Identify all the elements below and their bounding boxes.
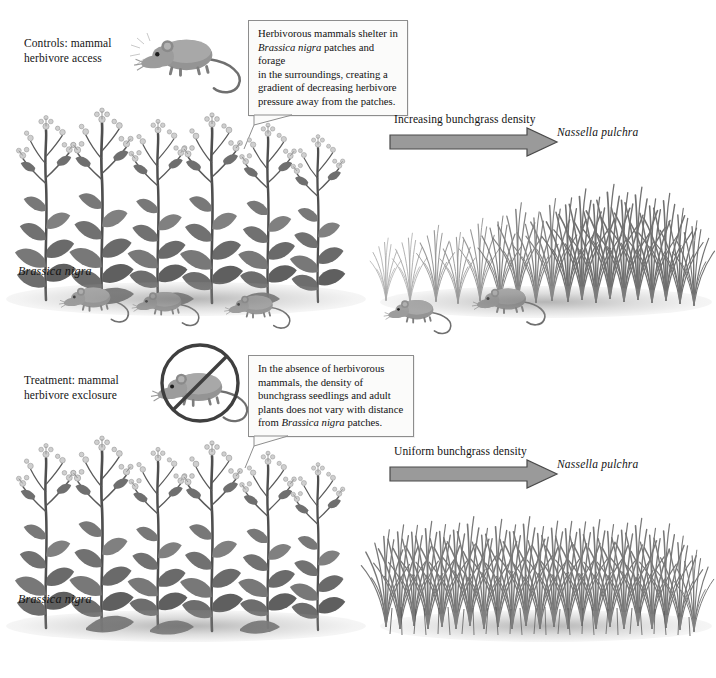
control-arrow-label: Increasing bunchgrass density — [394, 112, 536, 127]
exclosure-treatment-label-line1: Treatment: mammal — [24, 373, 154, 388]
exclosure-callout-species: Brassica nigra — [281, 416, 344, 428]
exclosure-brassica-illustration — [0, 434, 372, 648]
control-callout-box: Herbivorous mammals shelter in Brassica … — [248, 20, 408, 116]
control-callout-line3: in the surroundings, creating a — [258, 68, 388, 80]
control-grass-illustration — [376, 140, 716, 325]
exclosure-grass-panel — [376, 470, 716, 650]
mouse-in-grass-2 — [472, 289, 545, 325]
exclosure-callout-box: In the absence of herbivorous mammals, t… — [248, 355, 414, 437]
no-mouse-icon — [152, 341, 252, 433]
exclosure-callout-line3: bunchgrass seedlings and adult — [258, 389, 391, 401]
control-grass-panel — [376, 140, 716, 325]
exclosure-callout-line1: In the absence of herbivorous — [258, 362, 384, 374]
figure-root: Controls: mammal herbivore access Herbiv… — [0, 0, 716, 678]
exclosure-arrow-label: Uniform bunchgrass density — [394, 444, 527, 459]
control-brassica-panel: Brassica nigra — [0, 104, 372, 320]
exclosure-callout-line5-pre: from — [258, 416, 281, 428]
exclosure-grass-illustration — [376, 470, 716, 650]
mouse-in-brassica-3 — [224, 295, 290, 328]
control-callout-line4: gradient of decreasing herbivore — [258, 81, 397, 93]
exclosure-grass-label: Nassella pulchra — [557, 458, 638, 470]
mouse-icon — [126, 28, 238, 94]
control-brassica-label: Brassica nigra — [18, 264, 92, 279]
mouse-in-grass-1 — [384, 300, 451, 333]
exclosure-treatment-label: Treatment: mammal herbivore exclosure — [24, 373, 154, 403]
exclosure-callout-line5-rest: patches. — [345, 416, 382, 428]
exclosure-brassica-panel: Brassica nigra — [0, 434, 372, 648]
control-callout-line1: Herbivorous mammals shelter in — [258, 27, 398, 39]
exclosure-callout-line2: mammals, the density of — [258, 376, 363, 388]
exclosure-brassica-label: Brassica nigra — [18, 592, 92, 607]
exclosure-callout-line4: plants does not vary with distance — [258, 403, 403, 415]
control-brassica-illustration — [0, 104, 372, 320]
control-grass-label: Nassella pulchra — [557, 126, 638, 138]
exclosure-treatment-label-line2: herbivore exclosure — [24, 388, 154, 403]
control-callout-species: Brassica nigra — [258, 41, 321, 53]
